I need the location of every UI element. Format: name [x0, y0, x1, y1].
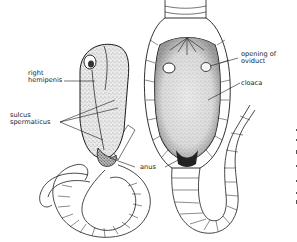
left-oviduct-opening — [163, 63, 175, 73]
label-anus-text: anus — [140, 163, 156, 171]
label-oviduct-line2: oviduct — [241, 58, 276, 65]
label-opening-of-oviduct: opening of oviduct — [241, 51, 276, 65]
label-anus: anus — [140, 164, 156, 171]
snake-cloaca-diagram: right hemipenis sulcus spermaticus anus … — [0, 0, 297, 242]
label-cloaca: cloaca — [241, 80, 262, 87]
right-oviduct-opening — [201, 63, 211, 72]
label-right-hemipenis-line2: hemipenis — [28, 77, 62, 84]
label-right-hemipenis: right hemipenis — [28, 70, 62, 84]
label-sulcus-spermaticus: sulcus spermaticus — [10, 112, 50, 126]
female-specimen — [144, 0, 255, 233]
edge-marks — [296, 129, 297, 204]
label-cloaca-text: cloaca — [241, 79, 262, 87]
label-sulcus-line2: spermaticus — [10, 119, 50, 126]
tail-scales-left — [58, 183, 142, 237]
